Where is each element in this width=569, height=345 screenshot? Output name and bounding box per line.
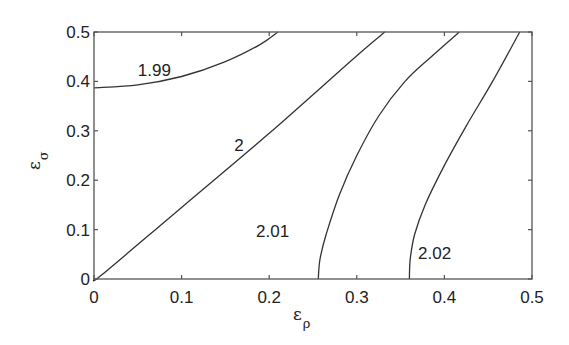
- x-tick-label: 0: [89, 288, 98, 307]
- contour-label-1-99: 1.99: [138, 61, 171, 80]
- y-tick-label: 0: [81, 270, 90, 289]
- x-tick-label: 0.4: [433, 288, 457, 307]
- contour-chart: 00.10.20.30.40.500.10.20.30.40.5 1.9922.…: [0, 0, 569, 345]
- x-tick-label: 0.5: [520, 288, 544, 307]
- x-tick-label: 0.2: [257, 288, 281, 307]
- contour-label-2-01: 2.01: [256, 222, 289, 241]
- y-tick-label: 0.3: [66, 122, 90, 141]
- y-tick-label: 0.2: [66, 171, 90, 190]
- contour-label-2: 2: [234, 136, 243, 155]
- y-tick-label: 0.1: [66, 221, 90, 240]
- x-tick-label: 0.3: [345, 288, 369, 307]
- x-tick-label: 0.1: [170, 288, 194, 307]
- contour-label-2-02: 2.02: [418, 244, 451, 263]
- y-tick-label: 0.5: [66, 23, 90, 42]
- y-tick-label: 0.4: [66, 72, 90, 91]
